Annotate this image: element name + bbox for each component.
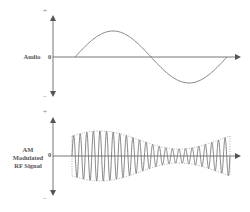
waveform-canvas <box>0 0 250 212</box>
audio-axes <box>53 18 238 94</box>
